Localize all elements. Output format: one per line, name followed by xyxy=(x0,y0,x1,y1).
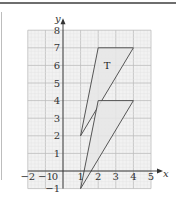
y-axis-arrow-icon xyxy=(61,18,66,24)
y-tick-label: −1 xyxy=(45,183,60,194)
y-tick-label: 2 xyxy=(54,130,60,141)
x-axis-label: x xyxy=(163,168,169,179)
y-tick-label: 8 xyxy=(54,25,60,36)
y-tick-label: 4 xyxy=(54,95,60,106)
x-tick-label: 4 xyxy=(130,171,136,182)
x-tick-label: 5 xyxy=(148,171,154,182)
y-tick-label: 5 xyxy=(54,78,60,89)
x-tick-label: 1 xyxy=(77,171,83,182)
shape-label-T: T xyxy=(104,60,111,71)
y-tick-label: 6 xyxy=(54,60,60,71)
x-tick-label: 2 xyxy=(95,171,101,182)
y-tick-label: 3 xyxy=(54,113,60,124)
x-tick-label: −1 xyxy=(38,171,53,182)
x-tick-label: 3 xyxy=(113,171,119,182)
y-tick-label: 7 xyxy=(54,42,60,53)
y-axis-label: y xyxy=(54,13,61,24)
origin-label: 0 xyxy=(52,171,58,182)
y-tick-label: 1 xyxy=(54,148,60,159)
coordinate-grid: T xy−2−112345−1123456780 xyxy=(0,0,176,198)
x-tick-label: −2 xyxy=(20,171,35,182)
